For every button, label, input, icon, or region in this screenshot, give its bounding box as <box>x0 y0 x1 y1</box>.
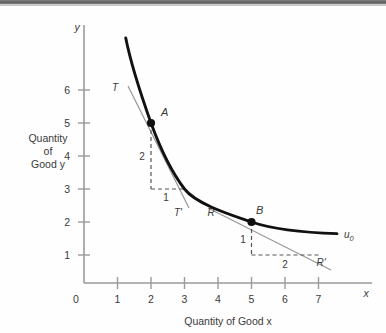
y-tick-label-1: 1 <box>64 249 70 261</box>
point-label-A: A <box>160 106 168 118</box>
y-tick-label-3: 3 <box>64 183 70 195</box>
scan-edge-artifact-secondary <box>0 4 386 6</box>
x-tick-label-4: 4 <box>215 293 221 305</box>
curve-label-u0: u0 <box>344 229 355 243</box>
x-tick-label-5: 5 <box>249 293 255 305</box>
point-label-B: B <box>256 204 263 216</box>
y-tick-label-2: 2 <box>64 216 70 228</box>
tangent-T-segment <box>128 86 189 208</box>
tangent-line-T <box>128 86 189 208</box>
x-tick-label-1: 1 <box>115 293 121 305</box>
y-axis-title-line-3: Good y <box>31 158 66 170</box>
x-tick-label-2: 2 <box>148 293 154 305</box>
y-axis-name: y <box>73 21 80 33</box>
tangent-label-T-prime: T' <box>174 207 183 218</box>
x-tick-label-7: 7 <box>316 293 322 305</box>
indifference-curve-u0 <box>126 38 337 234</box>
data-point-B: B <box>247 204 263 226</box>
y-axis-tick-labels: 6 5 4 3 2 1 <box>64 84 70 261</box>
y-axis-title-line-1: Quantity <box>28 132 68 144</box>
curve-path <box>126 38 337 234</box>
tangent-label-T: T <box>112 82 119 93</box>
point-marker-B <box>247 218 255 226</box>
slope-A-rise-label: 2 <box>139 151 145 162</box>
y-tick-label-4: 4 <box>64 150 70 162</box>
tangent-line-R <box>208 208 331 270</box>
tangent-R-segment <box>208 208 331 270</box>
y-axis-title: Quantity of Good y <box>28 132 68 170</box>
x-axis-tick-labels: 1 2 3 4 5 6 7 <box>115 293 322 305</box>
figure-root: 6 5 4 3 2 1 1 2 3 4 5 6 7 0 y <box>0 0 386 333</box>
x-tick-label-3: 3 <box>182 293 188 305</box>
slope-triangle-B <box>252 222 319 255</box>
slope-B-rise-label: 1 <box>240 234 246 245</box>
y-tick-label-6: 6 <box>64 84 70 96</box>
slope-A-run-label: 1 <box>163 192 169 203</box>
axis-lines <box>84 25 372 283</box>
x-tick-label-6: 6 <box>282 293 288 305</box>
indifference-curve-chart: 6 5 4 3 2 1 1 2 3 4 5 6 7 0 y <box>0 0 386 333</box>
tangent-label-R-prime: R' <box>316 257 326 268</box>
point-marker-A <box>147 119 155 127</box>
y-tick-label-5: 5 <box>64 117 70 129</box>
x-axis-name: x <box>362 287 369 299</box>
y-axis-title-line-2: of <box>44 145 53 157</box>
slope-B-run-label: 2 <box>282 259 288 270</box>
x-axis-title: Quantity of Good x <box>184 315 272 327</box>
curve-label-subscript: 0 <box>350 234 355 243</box>
origin-label: 0 <box>73 293 79 305</box>
